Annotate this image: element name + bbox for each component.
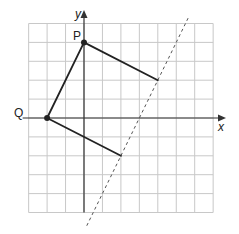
y-axis-arrow-icon (81, 10, 88, 18)
y-axis-label: y (75, 8, 81, 20)
diagram-canvas (0, 0, 239, 234)
point-q-label: Q (14, 107, 23, 119)
coordinate-diagram: y x P Q (0, 0, 239, 234)
point-q-dot (44, 115, 50, 121)
point-p-label: P (73, 30, 81, 42)
x-axis-label: x (218, 121, 224, 133)
axes (23, 10, 226, 213)
point-p-dot (81, 39, 87, 45)
